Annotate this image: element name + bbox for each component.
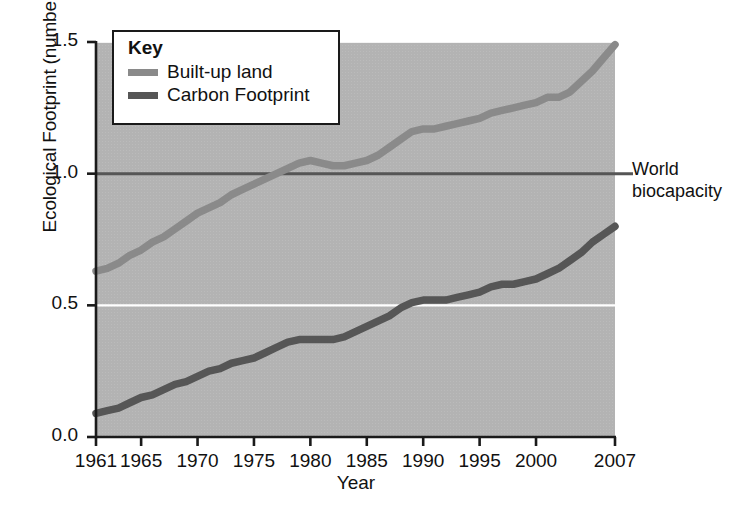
- x-axis-title: Year: [96, 472, 616, 494]
- x-tick-label: 1995: [458, 450, 500, 472]
- legend-swatch-carbon-footprint: [128, 92, 158, 99]
- legend-item-carbon-footprint[interactable]: Carbon Footprint: [128, 84, 338, 106]
- chart-figure: Ecological Footprint (number of Earths) …: [0, 0, 744, 510]
- legend-title: Key: [128, 37, 338, 59]
- y-tick-label: 1.5: [24, 29, 78, 51]
- x-tick-label: 1970: [176, 450, 218, 472]
- x-tick-label: 2007: [594, 450, 636, 472]
- legend-label-carbon-footprint: Carbon Footprint: [167, 84, 310, 106]
- legend-item-built-up-land[interactable]: Built-up land: [128, 61, 338, 83]
- x-tick-label: 1990: [402, 450, 444, 472]
- world-biocapacity-annotation: World biocapacity: [632, 158, 722, 202]
- x-tick-label: 2000: [515, 450, 557, 472]
- legend-swatch-built-up-land: [128, 69, 158, 76]
- x-tick-label: 1980: [289, 450, 331, 472]
- x-tick-label: 1961: [75, 450, 117, 472]
- legend-label-built-up-land: Built-up land: [167, 61, 273, 83]
- x-tick-label: 1965: [120, 450, 162, 472]
- x-tick-label: 1975: [233, 450, 275, 472]
- y-tick-label: 0.0: [24, 424, 78, 446]
- y-tick-label: 1.0: [24, 161, 78, 183]
- chart-legend: Key Built-up land Carbon Footprint: [112, 30, 340, 125]
- x-tick-label: 1985: [346, 450, 388, 472]
- y-tick-label: 0.5: [24, 292, 78, 314]
